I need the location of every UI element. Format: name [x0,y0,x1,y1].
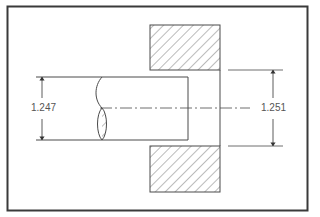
shaft-break-symbol [96,77,102,108]
shaft-diameter-label: 1.247 [29,102,58,114]
housing-top-section [150,25,220,70]
housing-bottom-section [150,146,220,192]
shaft [36,77,188,140]
bore-diameter-label: 1.251 [259,102,288,114]
